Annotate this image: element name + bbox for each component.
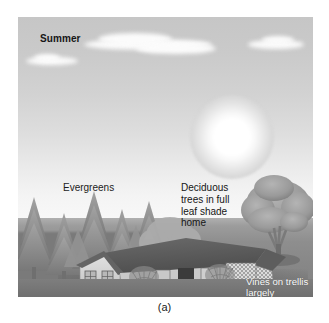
cloud-icon: [34, 54, 60, 62]
sun-icon: [190, 95, 274, 179]
cloud-icon: [262, 36, 294, 44]
deciduous-trees-label: Deciduous trees in full leaf shade home: [181, 182, 229, 229]
season-label: Summer: [40, 33, 81, 45]
cloud-icon: [136, 43, 216, 54]
illustration-scene: Summer Evergreens Deciduous trees in ful…: [18, 17, 313, 297]
evergreens-label: Evergreens: [63, 182, 114, 194]
vines-trellis-label: Vines on trellis largely covering front …: [246, 276, 313, 297]
figure-caption: (a): [0, 301, 329, 313]
figure-container: Summer Evergreens Deciduous trees in ful…: [0, 0, 329, 323]
